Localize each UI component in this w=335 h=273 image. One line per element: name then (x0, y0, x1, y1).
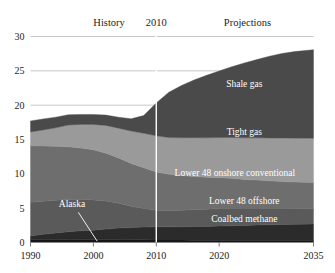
y-tick-label-0: 0 (20, 237, 25, 248)
shale-gas-label: Shale gas (226, 79, 262, 89)
y-tick-label-15: 15 (15, 134, 25, 145)
y-tick-label-5: 5 (20, 203, 25, 214)
lower48-onshore-label: Lower 48 onshore conventional (175, 168, 296, 178)
x-tick-label-2010: 2010 (146, 250, 166, 261)
lower48-offshore-label: Lower 48 offshore (209, 196, 280, 206)
x-tick-label-1990: 1990 (21, 250, 41, 261)
stacked-area-chart: 19902000201020202035 051015202530 Histor… (0, 0, 335, 273)
x-tick-label-2000: 2000 (83, 250, 103, 261)
y-tick-label-10: 10 (15, 168, 25, 179)
chart-canvas: 19902000201020202035 051015202530 Histor… (0, 0, 335, 273)
tight-gas-label: Tight gas (227, 127, 263, 137)
projections-label: Projections (224, 17, 271, 28)
coalbed-methane-label: Coalbed methane (211, 214, 277, 224)
x-tick-label-2035: 2035 (304, 250, 324, 261)
y-tick-label-20: 20 (15, 100, 25, 111)
y-tick-label-25: 25 (15, 65, 25, 76)
history-label: History (93, 17, 125, 28)
divider-year-label: 2010 (146, 17, 167, 28)
alaska-label: Alaska (59, 199, 86, 209)
y-tick-label-30: 30 (15, 31, 25, 42)
x-tick-label-2020: 2020 (209, 250, 229, 261)
